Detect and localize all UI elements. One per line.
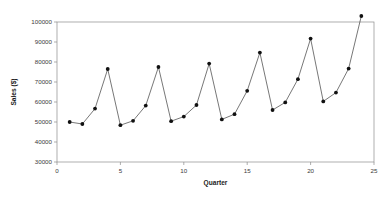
data-point	[347, 67, 351, 71]
chart-canvas: 3000040000500006000070000800009000010000…	[0, 0, 391, 200]
y-tick-label: 90000	[35, 38, 53, 45]
data-point	[157, 65, 161, 69]
x-axis-title: Quarter	[204, 179, 228, 187]
data-point	[80, 122, 84, 126]
x-tick-label: 15	[244, 167, 251, 174]
sales-series-markers	[68, 14, 363, 127]
x-axis: 0510152025	[55, 162, 378, 174]
data-point	[271, 108, 275, 112]
data-point	[182, 115, 186, 119]
data-point	[131, 119, 135, 123]
sales-series-line	[70, 16, 362, 125]
data-point	[195, 103, 199, 107]
data-point	[220, 118, 224, 122]
sales-by-quarter-line-chart: 3000040000500006000070000800009000010000…	[0, 0, 391, 200]
data-point	[321, 100, 325, 104]
data-point	[233, 112, 237, 116]
x-tick-label: 25	[371, 167, 378, 174]
data-point	[169, 119, 173, 123]
data-point	[359, 14, 363, 18]
y-tick-label: 40000	[35, 138, 53, 145]
data-point	[309, 37, 313, 41]
y-tick-label: 80000	[35, 58, 53, 65]
x-tick-label: 0	[55, 167, 59, 174]
data-point	[283, 101, 287, 105]
y-tick-label: 30000	[35, 158, 53, 165]
data-point	[144, 104, 148, 108]
data-point	[296, 77, 300, 81]
data-point	[119, 123, 123, 127]
y-tick-label: 50000	[35, 118, 53, 125]
y-tick-label: 60000	[35, 98, 53, 105]
x-tick-label: 10	[180, 167, 187, 174]
data-point	[106, 67, 110, 71]
x-tick-label: 5	[119, 167, 123, 174]
data-point	[245, 89, 249, 93]
data-point	[207, 62, 211, 66]
data-point	[258, 51, 262, 55]
data-point	[93, 107, 97, 111]
y-tick-label: 70000	[35, 78, 53, 85]
data-point	[334, 91, 338, 95]
y-axis-title: Sales ($)	[10, 78, 18, 105]
y-tick-label: 100000	[31, 18, 52, 25]
x-tick-label: 20	[307, 167, 314, 174]
data-point	[68, 120, 72, 124]
y-axis: 3000040000500006000070000800009000010000…	[31, 18, 57, 165]
